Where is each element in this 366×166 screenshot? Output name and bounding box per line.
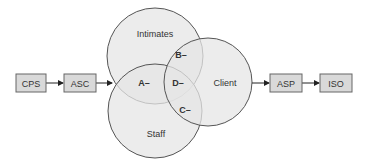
region-c-label: C–: [179, 105, 191, 115]
box-asp-label: ASP: [277, 79, 295, 89]
box-asp: ASP: [270, 74, 302, 92]
label-intimates: Intimates: [137, 29, 174, 39]
region-b-label: B–: [175, 50, 187, 60]
label-client: Client: [213, 78, 237, 88]
box-asc-label: ASC: [71, 79, 90, 89]
box-cps-label: CPS: [22, 79, 41, 89]
venn-flow-diagram: CPS ASC ASP ISO Intimates Client Staff A…: [0, 0, 366, 166]
box-iso: ISO: [320, 74, 352, 92]
region-a-label: A–: [138, 78, 150, 88]
box-cps: CPS: [16, 74, 46, 92]
label-staff: Staff: [147, 129, 166, 139]
region-d-label: D–: [172, 78, 184, 88]
box-asc: ASC: [64, 74, 96, 92]
box-iso-label: ISO: [328, 79, 344, 89]
